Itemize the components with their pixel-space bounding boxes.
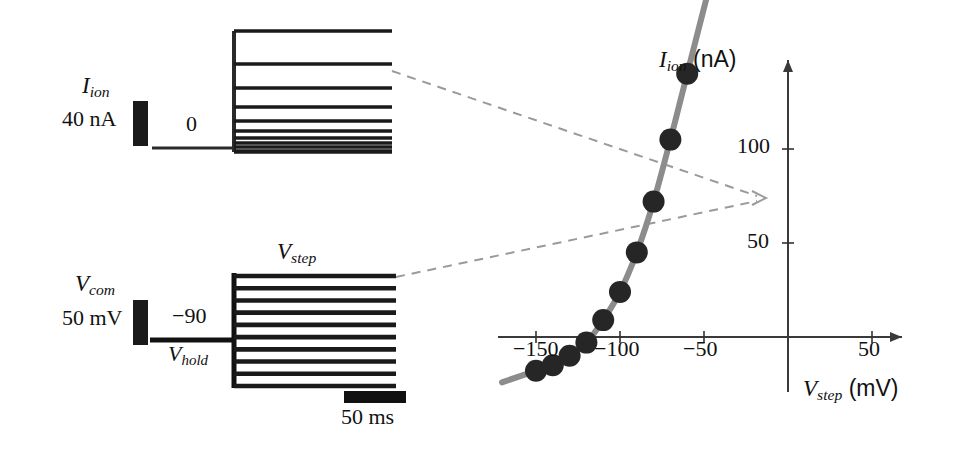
iv-marker-group: [525, 63, 698, 382]
x-axis-arrowhead: [890, 332, 902, 342]
iv-data-point: [626, 241, 648, 263]
voltage-scale-bar: [133, 300, 148, 345]
voltage-signal-label: Vcom: [75, 272, 115, 298]
current-baseline-label: 0: [186, 113, 197, 135]
x-tick-label-minus150: −150: [513, 338, 558, 360]
time-scale-bar: [344, 391, 406, 403]
current-scale-label: 40 nA: [62, 108, 116, 130]
iv-data-point: [609, 281, 631, 303]
y-tick-label-50: 50: [747, 230, 769, 252]
y-tick-label-100: 100: [737, 135, 770, 157]
iv-data-point: [659, 129, 681, 151]
y-axis-label: Iion (nA): [659, 48, 736, 74]
connector-group: [392, 71, 766, 277]
current-trace-panel: [133, 31, 392, 152]
holding-potential-label: −90: [172, 305, 206, 327]
connector-from-current: [392, 71, 757, 196]
figure-root: Iion 40 nA 0 Vcom 50 mV −90 Vhold Vstep …: [0, 0, 963, 450]
current-trace-group: [234, 31, 392, 152]
x-tick-label-minus50: −50: [683, 338, 717, 360]
iv-data-point: [592, 309, 614, 331]
time-scale-label: 50 ms: [341, 406, 394, 428]
voltage-trace-group: [234, 276, 396, 386]
current-scale-bar: [133, 101, 148, 146]
connector-arrowhead: [752, 191, 766, 205]
voltage-trace-panel: [133, 273, 406, 403]
y-axis-arrowhead: [783, 60, 793, 72]
vhold-label: Vhold: [168, 343, 208, 368]
iv-data-point: [643, 191, 665, 213]
current-signal-label: Iion: [82, 74, 110, 100]
connector-from-voltage: [396, 201, 757, 277]
vstep-label: Vstep: [277, 240, 316, 266]
x-tick-label-50: 50: [858, 338, 880, 360]
voltage-scale-label: 50 mV: [62, 307, 123, 329]
x-axis-label: Vstep (mV): [803, 377, 898, 403]
x-tick-label-minus100: −100: [594, 338, 639, 360]
